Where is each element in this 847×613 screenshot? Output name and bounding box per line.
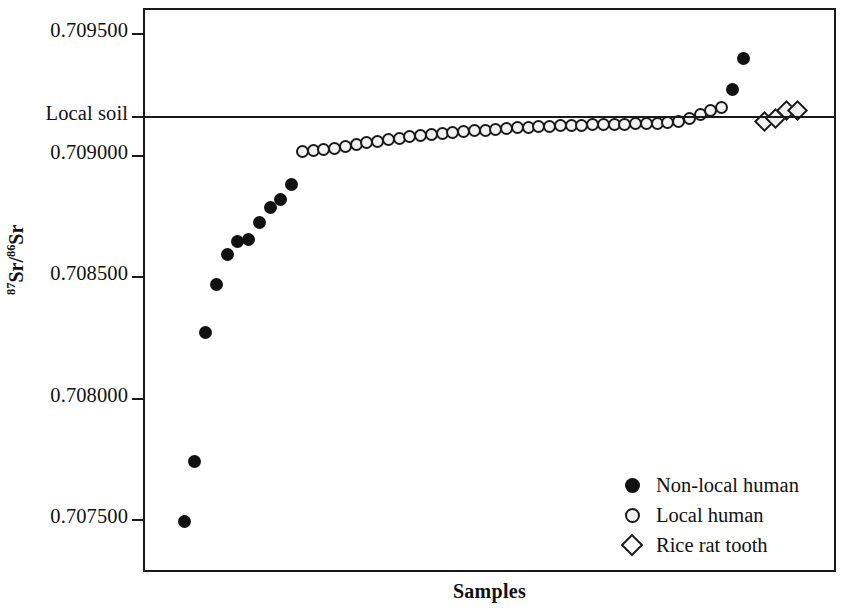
x-axis-title: Samples: [143, 580, 836, 603]
data-point-filled-circle: [726, 83, 739, 96]
chart-legend: Non-local humanLocal humanRice rat tooth: [617, 470, 799, 560]
y-axis-tick-mark: [132, 276, 143, 278]
y-axis-tick-mark: [132, 33, 143, 35]
data-point-filled-circle: [178, 515, 191, 528]
y-axis-tick-label-text: 0.708500: [50, 262, 128, 285]
y-axis-tick-label-text: 0.707500: [50, 505, 128, 528]
data-point-filled-circle: [253, 216, 266, 229]
y-axis-tick-label: 0.708000: [0, 384, 128, 408]
data-point-filled-circle: [199, 326, 212, 339]
legend-marker-filled-circle-icon: [617, 478, 647, 493]
y-axis-tick-label-text: 0.709000: [50, 141, 128, 164]
legend-item-label: Non-local human: [656, 474, 799, 497]
data-point-filled-circle: [188, 455, 201, 468]
legend-item: Rice rat tooth: [617, 530, 799, 560]
data-point-filled-circle: [737, 52, 750, 65]
local-soil-reference-line: [143, 116, 836, 118]
filled-circle-icon: [625, 478, 640, 493]
legend-marker-open-circle-icon: [617, 508, 647, 523]
y-axis-title-sup-87: 87: [4, 283, 18, 295]
open-circle-icon: [625, 508, 640, 523]
data-point-filled-circle: [221, 248, 234, 261]
y-axis-tick-label-text: 0.708000: [50, 384, 128, 407]
data-point-open-circle: [715, 101, 728, 114]
y-axis-title: 87Sr/86Sr: [4, 200, 28, 320]
legend-marker-open-diamond-icon: [617, 537, 647, 553]
y-axis-tick-label: 0.709500: [0, 19, 128, 43]
y-axis-title-end: Sr: [5, 225, 27, 245]
data-point-filled-circle: [274, 193, 287, 206]
data-point-filled-circle: [210, 278, 223, 291]
y-axis-tick-label: 0.707500: [0, 505, 128, 529]
legend-item: Non-local human: [617, 470, 799, 500]
y-axis-tick-mark: [132, 519, 143, 521]
chart-page: 0.7095000.7090000.7085000.7080000.707500…: [0, 0, 847, 613]
legend-item-label: Local human: [656, 504, 764, 527]
legend-item: Local human: [617, 500, 799, 530]
y-axis-tick-label: 0.709000: [0, 141, 128, 165]
legend-item-label: Rice rat tooth: [656, 534, 768, 557]
open-diamond-icon: [621, 534, 644, 557]
y-axis-title-mid: Sr/: [5, 257, 27, 283]
y-axis-title-sup-86: 86: [4, 245, 18, 257]
local-soil-tick-mark: [132, 116, 143, 118]
y-axis-tick-label-text: 0.709500: [50, 19, 128, 42]
y-axis-tick-mark: [132, 155, 143, 157]
data-point-filled-circle: [285, 178, 298, 191]
local-soil-label-text: Local soil: [46, 102, 128, 125]
data-point-filled-circle: [242, 233, 255, 246]
y-axis-tick-mark: [132, 398, 143, 400]
local-soil-label: Local soil: [0, 102, 128, 126]
